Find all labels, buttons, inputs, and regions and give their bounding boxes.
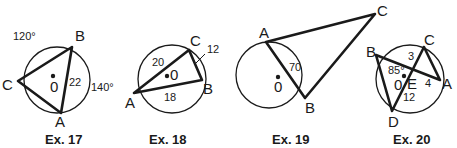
- point-c: C: [190, 32, 201, 49]
- figure-ex19: A C 70 0 B Ex. 19: [236, 2, 388, 147]
- figure-ex18: C 12 20 0 B 18 A Ex. 18: [125, 32, 219, 147]
- arc-label-120: 120°: [13, 30, 36, 42]
- point-b: B: [366, 43, 376, 60]
- center-o: 0: [170, 66, 178, 83]
- caption-ex17: Ex. 17: [45, 132, 83, 147]
- segment-label-4: 4: [425, 77, 431, 89]
- point-b: B: [75, 27, 85, 44]
- angle-label-85: 85°: [388, 64, 405, 76]
- figure-ex20: B C 3 85° 0 E 4 A 12 D Ex. 20: [366, 31, 452, 147]
- geometry-exercises: 120° B C 0 22 140° A Ex. 17 C 12 20 0 B …: [0, 0, 457, 148]
- center-o: 0: [394, 76, 402, 93]
- point-e: E: [407, 75, 417, 92]
- caption-ex19: Ex. 19: [272, 132, 310, 147]
- chord-label-70: 70: [289, 61, 301, 73]
- point-c: C: [2, 76, 13, 93]
- point-b: B: [305, 99, 315, 116]
- circle: [236, 42, 302, 108]
- chord-label-20: 20: [152, 56, 164, 68]
- triangle-abc: [134, 50, 202, 93]
- chord-label-18: 18: [164, 91, 176, 103]
- center-dot: [165, 74, 169, 78]
- segment-label-3: 3: [408, 50, 414, 62]
- arc-label-140: 140°: [91, 81, 114, 93]
- chord-label-12: 12: [207, 43, 219, 55]
- point-c: C: [377, 2, 388, 19]
- point-a: A: [55, 113, 65, 130]
- caption-ex18: Ex. 18: [149, 132, 187, 147]
- triangle-abc: [18, 47, 72, 113]
- point-a: A: [442, 75, 452, 92]
- point-d: D: [388, 113, 399, 130]
- center-o: 0: [50, 78, 58, 95]
- center-o: 0: [274, 78, 282, 95]
- point-b: B: [203, 80, 213, 97]
- chord-label-22: 22: [69, 76, 81, 88]
- point-a: A: [259, 24, 269, 41]
- segment-label-12: 12: [403, 91, 415, 103]
- figure-ex17: 120° B C 0 22 140° A Ex. 17: [2, 27, 114, 147]
- point-a: A: [125, 94, 135, 111]
- tangent-triangle-abc: [266, 14, 375, 98]
- caption-ex20: Ex. 20: [393, 132, 431, 147]
- point-c: C: [424, 31, 435, 48]
